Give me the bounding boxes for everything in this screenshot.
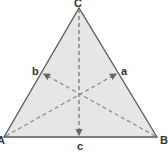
midpoint-label-b: b [32, 65, 39, 77]
triangle-diagram: C A B c b a [0, 0, 168, 156]
vertex-label-c: C [74, 0, 82, 9]
vertex-label-b: B [160, 134, 168, 146]
triangle-abc [4, 8, 157, 137]
vertex-label-a: A [0, 134, 5, 146]
midpoint-label-a: a [121, 65, 128, 77]
midpoint-label-c: c [77, 140, 83, 152]
